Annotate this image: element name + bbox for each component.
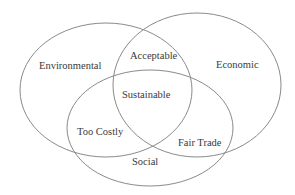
acceptable-label: Acceptable (130, 50, 178, 61)
sustainable-label: Sustainable (122, 89, 171, 100)
fair-trade-label: Fair Trade (178, 137, 222, 148)
venn-diagram: Environmental Economic Social Acceptable… (0, 0, 295, 195)
economic-label: Economic (216, 59, 259, 70)
economic-circle (113, 13, 281, 157)
environmental-label: Environmental (39, 60, 101, 71)
social-label: Social (132, 156, 158, 167)
too-costly-label: Too Costly (77, 126, 124, 137)
